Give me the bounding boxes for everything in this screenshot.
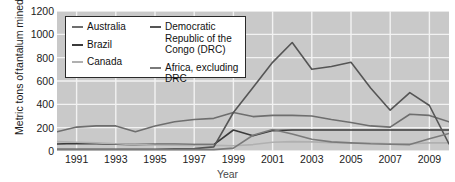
y-axis-tick-labels: 020040060080010001200 bbox=[18, 0, 54, 182]
x-tick-label: 1991 bbox=[65, 153, 88, 165]
x-tick-label: 2009 bbox=[418, 153, 441, 165]
legend-swatch-icon bbox=[150, 26, 161, 28]
x-tick-label: 1997 bbox=[183, 153, 206, 165]
legend-item[interactable]: Brazil bbox=[72, 39, 150, 51]
x-tick-label: 1993 bbox=[104, 153, 127, 165]
legend-swatch-icon bbox=[72, 26, 83, 28]
y-tick-label: 800 bbox=[18, 53, 54, 63]
legend-column-2: Democratic Republic of the Congo (DRC)Af… bbox=[150, 21, 244, 91]
legend-swatch-icon bbox=[72, 44, 83, 46]
y-tick-label: 1200 bbox=[18, 6, 54, 16]
legend-swatch-icon bbox=[150, 67, 161, 69]
x-axis-title: Year bbox=[0, 168, 455, 180]
x-tick-label: 1995 bbox=[143, 153, 166, 165]
y-tick-label: 400 bbox=[18, 99, 54, 109]
legend-label: Africa, excluding DRC bbox=[165, 62, 244, 85]
legend-swatch-icon bbox=[72, 61, 83, 63]
legend-item[interactable]: Democratic Republic of the Congo (DRC) bbox=[150, 21, 244, 56]
legend-item[interactable]: Canada bbox=[72, 56, 150, 68]
y-tick-label: 1000 bbox=[18, 29, 54, 39]
x-axis-tick-labels: 1991199319951997199920012003200520072009 bbox=[57, 153, 449, 167]
x-tick-label: 2001 bbox=[261, 153, 284, 165]
chart-figure: Metric tons of tantalum mined 0200400600… bbox=[0, 0, 455, 182]
y-tick-label: 600 bbox=[18, 76, 54, 86]
x-tick-label: 2007 bbox=[379, 153, 402, 165]
y-tick-label: 200 bbox=[18, 123, 54, 133]
legend: AustraliaBrazilCanada Democratic Republi… bbox=[65, 16, 246, 78]
x-tick-label: 1999 bbox=[222, 153, 245, 165]
legend-label: Democratic Republic of the Congo (DRC) bbox=[165, 21, 244, 56]
legend-label: Australia bbox=[87, 21, 126, 33]
x-tick-label: 2005 bbox=[339, 153, 362, 165]
legend-item[interactable]: Australia bbox=[72, 21, 150, 33]
x-tick-label: 2003 bbox=[300, 153, 323, 165]
legend-item[interactable]: Africa, excluding DRC bbox=[150, 62, 244, 85]
legend-column-1: AustraliaBrazilCanada bbox=[72, 21, 150, 74]
y-tick-label: 0 bbox=[18, 146, 54, 156]
legend-label: Canada bbox=[87, 56, 122, 68]
legend-label: Brazil bbox=[87, 39, 112, 51]
